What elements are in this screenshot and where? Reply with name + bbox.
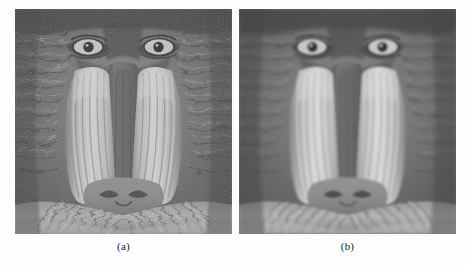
image-panel-a [15, 9, 232, 234]
image-panel-b [239, 9, 456, 234]
caption-a: (a) [15, 240, 232, 252]
figure-root: (a) [0, 0, 465, 267]
mandrill-scene-a [15, 9, 232, 234]
caption-b: (b) [239, 240, 456, 252]
mandrill-image-a [15, 9, 232, 234]
mandrill-image-b [239, 9, 456, 234]
mandrill-scene-b [239, 9, 456, 234]
